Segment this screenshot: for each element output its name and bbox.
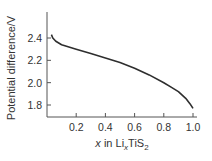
discharge-curve-chart: 1.82.02.22.4 0.20.40.60.81.0 Potential d… xyxy=(0,0,212,161)
x-axis-sub-2: 2 xyxy=(144,143,149,152)
y-tick-label: 1.8 xyxy=(27,99,42,111)
x-axis-tis: TiS xyxy=(128,137,144,149)
axes xyxy=(47,12,197,117)
x-tick-label: 0.4 xyxy=(98,121,113,133)
x-tick-label: 1.0 xyxy=(186,121,201,133)
potential-curve xyxy=(51,35,193,109)
x-axis-title: x in LixTiS2 xyxy=(94,137,149,152)
y-axis-title: Potential difference/V xyxy=(5,15,17,120)
x-axis-in: in Li xyxy=(101,137,124,149)
x-ticks: 0.20.40.60.81.0 xyxy=(69,113,201,133)
y-tick-label: 2.4 xyxy=(27,32,42,44)
x-tick-label: 0.2 xyxy=(69,121,84,133)
x-tick-label: 0.6 xyxy=(127,121,142,133)
x-tick-label: 0.8 xyxy=(156,121,171,133)
y-tick-label: 2.2 xyxy=(27,54,42,66)
y-tick-label: 2.0 xyxy=(27,77,42,89)
